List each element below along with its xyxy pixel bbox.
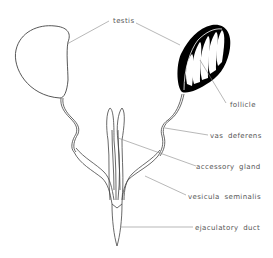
leader-testis-left [67, 21, 109, 44]
label-follicle: follicle [230, 101, 256, 109]
label-vesicula-seminalis: vesicula seminalis [188, 193, 261, 201]
left-vesicula-seminalis [74, 152, 112, 204]
leader-testis-right [136, 23, 180, 45]
ejaculatory-duct [112, 204, 122, 246]
diagram-drawing [0, 0, 273, 258]
label-ejaculatory-duct: ejaculatory duct [195, 224, 260, 232]
reproductive-system-diagram: testis follicle vas deferens accessory g… [0, 0, 273, 258]
label-vas-deferens: vas deferens [210, 132, 262, 140]
right-testis [178, 25, 231, 93]
right-vas-deferens [158, 94, 182, 156]
accessory-glands [107, 108, 125, 200]
label-testis: testis [113, 17, 134, 25]
left-testis [15, 26, 69, 98]
label-accessory-gland: accessory gland [196, 163, 261, 171]
leader-accessory-gland [118, 138, 196, 166]
leader-vas-deferens [165, 128, 208, 135]
leader-vesicula-seminalis [145, 176, 186, 195]
